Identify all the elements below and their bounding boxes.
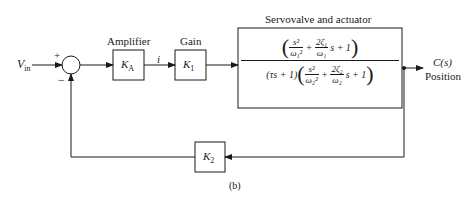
output-label: Position (425, 70, 461, 82)
figure-caption: (b) (229, 180, 241, 191)
gain-title: Gain (180, 35, 201, 47)
servo-transfer-function: ( s²ω₁² + 2ζ₁ω₁ s + 1 ) (τs + 1) ( s²ω₂²… (238, 36, 402, 85)
tf-numerator: ( s²ω₁² + 2ζ₁ω₁ s + 1 ) (282, 36, 358, 58)
tf-fraction-bar (241, 60, 399, 61)
input-label: Vin (17, 57, 31, 73)
summing-junction (62, 56, 80, 74)
feedback-gain: K2 (203, 150, 214, 165)
minus-sign: − (58, 73, 65, 88)
current-signal-label: i (157, 53, 160, 65)
gain-value: K1 (183, 58, 194, 73)
tf-denominator: (τs + 1) ( s²ω₂² + 2ζ₂ω₂ s + 1 ) (266, 63, 373, 85)
diagram-lines (0, 0, 470, 203)
amplifier-gain: KA (121, 58, 134, 73)
amplifier-title: Amplifier (107, 35, 150, 47)
servo-title: Servovalve and actuator (265, 13, 371, 25)
takeoff-point (402, 66, 406, 70)
output-symbol: C(s) (433, 56, 452, 68)
plus-sign: + (54, 49, 60, 61)
